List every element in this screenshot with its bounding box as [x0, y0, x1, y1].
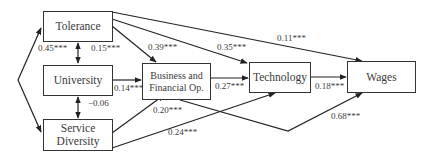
coef-business-technology: 0.27*** — [215, 81, 244, 91]
coef-tolerance-service: 0.45*** — [38, 43, 67, 53]
node-technology: Technology — [249, 62, 311, 93]
node-label: Tolerance — [55, 20, 100, 33]
node-tolerance: Tolerance — [43, 11, 113, 42]
node-label: Wages — [366, 71, 396, 84]
node-label-line: Diversity — [57, 135, 100, 148]
coef-technology-wages: 0.18*** — [315, 81, 344, 91]
node-business-financial: Business and Financial Op. — [142, 63, 211, 100]
coef-business-wages: 0.68*** — [331, 111, 360, 121]
tolerance-wages-path — [112, 12, 362, 61]
coef-tolerance-university: 0.15*** — [91, 43, 120, 53]
coef-service-technology: 0.24*** — [168, 127, 197, 137]
node-label: University — [54, 74, 103, 87]
coef-service-business: 0.20*** — [153, 105, 182, 115]
node-label: Technology — [253, 71, 307, 84]
coef-tolerance-wages: 0.11*** — [277, 33, 306, 43]
coef-tolerance-technology: 0.35*** — [217, 42, 246, 52]
node-label-line: Business and — [150, 70, 203, 82]
node-label-line: Service — [61, 122, 95, 135]
node-wages: Wages — [347, 61, 416, 93]
node-label-line: Financial Op. — [149, 82, 203, 94]
coef-university-service: −0.06 — [88, 98, 109, 108]
node-university: University — [43, 65, 113, 96]
coef-university-business: 0.14*** — [114, 83, 143, 93]
node-service-diversity: Service Diversity — [43, 119, 113, 151]
coef-tolerance-business: 0.39*** — [148, 42, 177, 52]
